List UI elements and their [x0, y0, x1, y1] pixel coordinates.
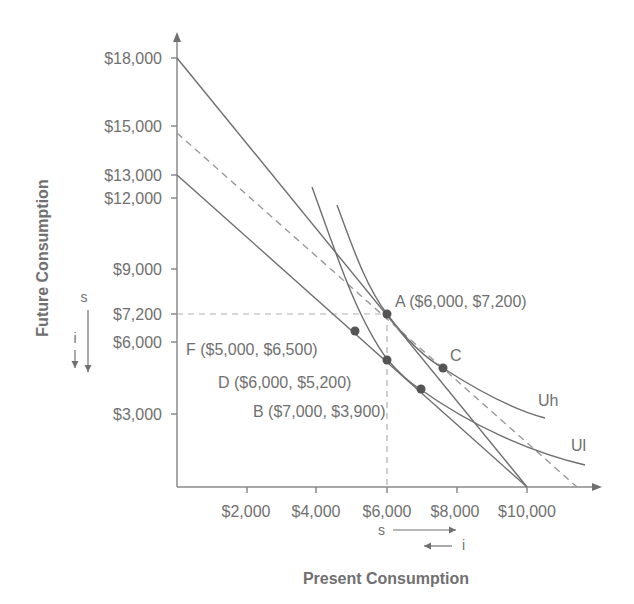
x-axis-title: Present Consumption — [303, 570, 469, 587]
y-tick-7200: $7,200 — [113, 306, 162, 323]
y-axis-effect-arrows: s i — [73, 289, 88, 372]
x-s-label: s — [378, 522, 385, 538]
label-curve-uh: Uh — [538, 392, 558, 409]
y-tick-6000: $6,000 — [113, 334, 162, 351]
point-b — [417, 385, 426, 394]
label-point-b: B ($7,000, $3,900) — [253, 403, 386, 420]
x-i-label: i — [462, 537, 465, 553]
y-tick-18000: $18,000 — [104, 50, 162, 67]
y-tick-3000: $3,000 — [113, 406, 162, 423]
x-tick-6000: $6,000 — [363, 503, 412, 520]
budget-line-dashed — [177, 133, 577, 487]
point-f — [351, 327, 360, 336]
y-tick-12000: $12,000 — [104, 190, 162, 207]
y-tick-labels: $18,000 $15,000 $13,000 $12,000 $9,000 $… — [104, 50, 162, 423]
curve-ul — [312, 187, 585, 465]
x-tick-4000: $4,000 — [292, 503, 341, 520]
x-tick-10000: $10,000 — [498, 503, 556, 520]
x-tick-8000: $8,000 — [431, 503, 480, 520]
label-point-f: F ($5,000, $6,500) — [186, 341, 318, 358]
point-c — [439, 364, 448, 373]
label-point-c: C — [450, 347, 462, 364]
point-d — [383, 356, 392, 365]
budget-lines — [177, 58, 577, 487]
x-axis-arrow-icon — [592, 483, 602, 491]
y-tick-9000: $9,000 — [113, 261, 162, 278]
axes — [173, 32, 602, 491]
y-s-label: s — [81, 289, 88, 305]
label-point-d: D ($6,000, $5,200) — [218, 374, 351, 391]
x-tick-2000: $2,000 — [222, 503, 271, 520]
intertemporal-choice-chart: $18,000 $15,000 $13,000 $12,000 $9,000 $… — [0, 0, 634, 604]
label-point-a: A ($6,000, $7,200) — [395, 293, 527, 310]
y-axis-arrow-icon — [173, 32, 181, 42]
x-tick-labels: $2,000 $4,000 $6,000 $8,000 $10,000 — [222, 503, 556, 520]
y-i-label: i — [73, 330, 76, 346]
label-curve-ul: Ul — [571, 437, 586, 454]
y-tick-13000: $13,000 — [104, 167, 162, 184]
y-ticks — [171, 58, 177, 414]
guide-lines — [177, 314, 387, 487]
indifference-curves — [312, 187, 585, 465]
point-a — [383, 310, 392, 319]
y-axis-title: Future Consumption — [34, 179, 51, 336]
x-ticks — [247, 487, 527, 493]
curve-uh — [337, 205, 545, 418]
x-axis-effect-arrows: s i — [378, 522, 465, 553]
y-tick-15000: $15,000 — [104, 118, 162, 135]
